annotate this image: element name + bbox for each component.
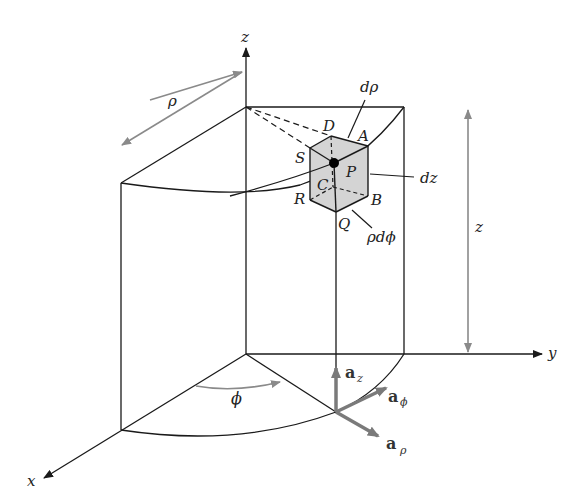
point-c-label: C <box>317 176 329 194</box>
a-phi-vector <box>336 388 386 412</box>
z-axis-label: z <box>240 28 249 46</box>
rho-label: ρ <box>167 92 177 110</box>
x-axis <box>44 354 246 478</box>
dz-label: dz <box>420 169 438 187</box>
svg-text:a: a <box>386 434 396 453</box>
point-s-label: S <box>295 149 305 167</box>
rho-d-phi-label: ρdϕ <box>366 228 396 246</box>
svg-text:a: a <box>345 363 355 382</box>
svg-text:ϕ: ϕ <box>400 396 408 409</box>
y-axis-label: y <box>547 344 557 362</box>
d-rho-label: dρ <box>360 78 379 96</box>
phi-arc-arrow <box>196 382 280 389</box>
point-b-label: B <box>370 191 382 209</box>
svg-text:a: a <box>388 387 398 406</box>
rho-dimension-arrow <box>150 72 242 100</box>
svg-text:ρ: ρ <box>399 444 407 457</box>
a-rho-vector <box>336 412 378 436</box>
a-z-label: a z <box>345 363 363 385</box>
z-height-label: z <box>474 218 483 236</box>
point-a-label: A <box>356 127 369 145</box>
point-r-label: R <box>293 190 305 208</box>
x-axis-label: x <box>27 472 36 490</box>
a-rho-label: a ρ <box>386 434 407 457</box>
point-q-label: Q <box>338 215 350 233</box>
dashed-guides <box>246 107 331 148</box>
point-p-label: P <box>345 163 357 181</box>
phi-label: ϕ <box>231 389 242 408</box>
cylindrical-coordinates-diagram: z y x ρ z ϕ dρ dz ρdϕ D A S P C R B Q a … <box>0 0 586 502</box>
dimension-arrows <box>122 72 468 389</box>
point-p-dot <box>329 158 339 168</box>
a-phi-label: a ϕ <box>388 387 408 409</box>
svg-text:z: z <box>356 372 363 385</box>
point-d-label: D <box>322 117 335 135</box>
